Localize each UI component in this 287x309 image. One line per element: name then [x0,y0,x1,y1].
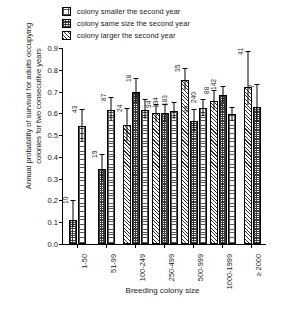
bar [132,92,140,244]
error-bar [247,51,248,104]
y-axis-tick-mark [59,70,62,71]
error-bar-cap-top [100,154,105,155]
error-bar-cap-top [183,68,188,69]
sample-size-label: 240 [191,92,198,103]
bar [210,101,218,244]
legend-label: colony smaller the second year [77,7,180,16]
x-axis-tick-mark [222,245,223,248]
error-bar-cap-top [221,86,226,87]
legend-item: colony larger the second year [62,30,242,41]
plot-area: 0.00.10.20.30.40.50.60.70.80.910431-5019… [62,48,266,244]
bar [161,113,169,244]
legend-swatch-dots-icon [62,7,71,16]
y-axis-tick-mark [59,179,62,180]
sample-size-label: 183 [161,95,168,106]
error-bar [173,102,174,118]
sample-size-label: 7 [248,84,255,88]
error-bar-cap-top [192,109,197,110]
y-axis-tick-label: 0.3 [32,174,62,183]
error-bar [164,104,165,123]
x-axis-category-label: ≥ 2000 [254,254,263,277]
bar-group-item: 43 [78,48,86,244]
sample-size-label: 18 [125,75,132,82]
sample-size-label: 87 [101,94,108,101]
y-axis-tick-mark [59,92,62,93]
error-bar [126,108,127,141]
y-axis-tick-label: 0.9 [32,44,62,53]
error-bar-cap-top [133,78,138,79]
bar-group-item: 88 [210,48,218,244]
error-bar [194,109,195,132]
bar-group-item: 95 [190,48,198,244]
error-bar-cap-top [201,99,206,100]
y-axis-tick-mark [59,157,62,158]
error-bar [214,90,215,110]
x-axis-category-label: 1000-1999 [225,254,234,289]
error-bar [203,99,204,115]
bar-group-item: 183 [170,48,178,244]
sample-size-label: 19 [92,150,99,157]
sample-size-label: 94 [145,100,152,107]
bar [228,114,236,244]
error-bar-cap-top [171,102,176,103]
x-axis-category-label: 1-50 [80,254,89,269]
error-bar-cap-top [124,108,129,109]
x-axis-category-label: 250-499 [167,254,176,281]
error-bar-cap-top [254,84,259,85]
x-axis-tick-mark [77,245,78,248]
bar [181,80,189,244]
y-axis-tick-mark [59,113,62,114]
bar-group-item: 134 [161,48,169,244]
error-bar-cap-top [80,109,85,110]
y-axis-tick-label: 0.5 [32,131,62,140]
error-bar [256,84,257,122]
bar [244,87,252,244]
sample-size-label: 142 [211,79,218,90]
sample-size-label: 116 [133,93,140,104]
bar [170,111,178,244]
bar-group-item: 19 [98,48,106,244]
chart-legend: colony smaller the second yearcolony sam… [62,6,242,42]
bar [199,108,207,244]
bar-group-item: 41 [244,48,252,244]
error-bar-cap-top [212,90,217,91]
y-axis-tick-label: 0.1 [32,218,62,227]
legend-item: colony same size the second year [62,18,242,29]
sample-size-label: 35 [174,64,181,71]
y-axis-line [62,48,63,244]
x-axis-tick-mark [251,245,252,248]
sample-size-label: 24 [116,105,123,112]
y-axis-tick-label: 0.6 [32,109,62,118]
bar-chart-figure: colony smaller the second yearcolony sam… [0,0,287,309]
error-bar-cap-top [245,51,250,52]
error-bar-cap-top [71,200,76,201]
error-bar [111,97,112,121]
legend-swatch-hatch-icon [62,31,71,40]
bar [219,95,227,244]
error-bar-cap-top [230,107,235,108]
bar-group-item: 142 [219,48,227,244]
bar-group-item: 35 [181,48,189,244]
bar-group-item: 87 [107,48,115,244]
sample-size-label: 10 [62,197,69,204]
bar-group-item: 10 [69,48,77,244]
bar-group-item: 18 [132,48,140,244]
error-bar [82,109,83,142]
sample-size-label: 327 [220,100,227,111]
sample-size-label: 134 [152,97,159,108]
legend-label: colony larger the second year [77,31,175,40]
bar-group-item: 94 [152,48,160,244]
x-axis-category-label: 100-249 [138,254,147,281]
legend-label: colony same size the second year [77,19,190,28]
bar [123,125,131,244]
x-axis-tick-mark [106,245,107,248]
bar-group-item: 240 [199,48,207,244]
y-axis-tick-mark [59,48,62,49]
bar-group-item: 327 [228,48,236,244]
x-axis-title: Breeding colony size [60,286,265,295]
legend-item: colony smaller the second year [62,6,242,17]
y-axis-tick-mark [59,244,62,245]
error-bar [185,68,186,91]
y-axis-tick-label: 0.0 [32,240,62,249]
error-bar-cap-top [109,97,114,98]
